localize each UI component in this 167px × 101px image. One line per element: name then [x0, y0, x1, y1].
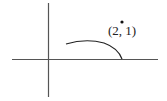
curve-arc	[66, 41, 122, 59]
coordinate-diagram: (2, 1)	[0, 0, 167, 101]
point-label: (2, 1)	[108, 23, 136, 38]
